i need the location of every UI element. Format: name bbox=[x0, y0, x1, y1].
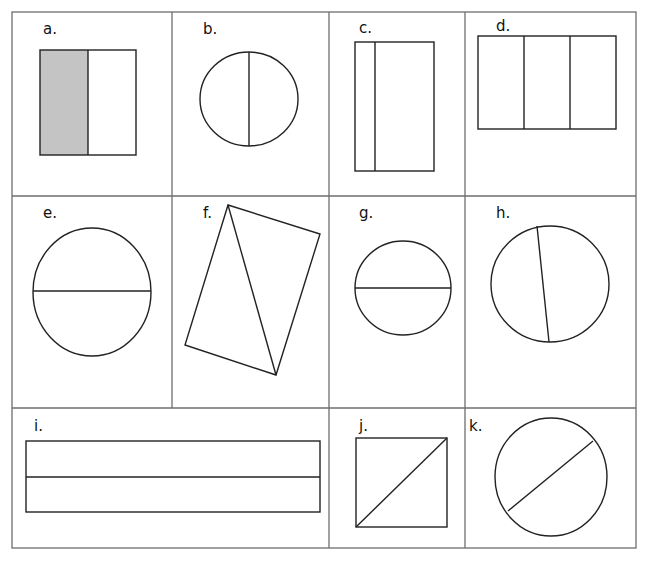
shape-e-circle-horizontal-diameter bbox=[33, 228, 151, 356]
label-j: j. bbox=[359, 417, 368, 435]
fraction-worksheet-grid bbox=[0, 0, 648, 564]
label-k: k. bbox=[469, 417, 482, 435]
shape-j-square-diagonal bbox=[356, 438, 447, 527]
shape-b-circle-vertical-diameter bbox=[200, 52, 298, 146]
label-g: g. bbox=[359, 204, 373, 222]
label-c: c. bbox=[359, 19, 372, 37]
label-d: d. bbox=[496, 17, 510, 35]
shape-f-tilted-rectangle-diagonal bbox=[185, 205, 320, 375]
label-f: f. bbox=[203, 204, 212, 222]
label-h: h. bbox=[496, 204, 510, 222]
shape-a-square-half-shaded bbox=[40, 50, 136, 155]
shape-c-rectangle-unequal bbox=[355, 42, 434, 171]
shape-d-rectangle-thirds bbox=[478, 36, 616, 129]
label-e: e. bbox=[43, 204, 57, 222]
label-i: i. bbox=[34, 417, 43, 435]
shape-h-circle-tilted-diameter bbox=[491, 226, 609, 342]
shape-k-oval-chord bbox=[495, 418, 607, 536]
shape-g-circle-horizontal-diameter bbox=[355, 241, 451, 335]
label-b: b. bbox=[203, 20, 217, 38]
shape-i-long-rectangle-halved bbox=[26, 441, 320, 512]
label-a: a. bbox=[43, 20, 57, 38]
